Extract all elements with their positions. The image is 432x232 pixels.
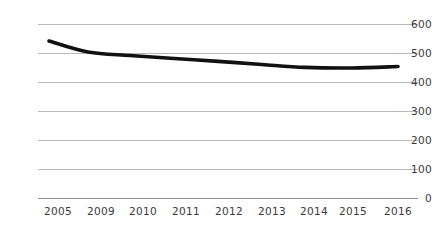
ytick-label-100: 100 bbox=[400, 164, 432, 175]
xtick-label-2009: 2009 bbox=[78, 206, 124, 217]
xtick-label-2010: 2010 bbox=[120, 206, 166, 217]
line-chart: 600 500 400 300 200 100 0 2005 2009 2010… bbox=[0, 0, 432, 232]
xtick-label-2016: 2016 bbox=[375, 206, 421, 217]
xtick-label-2005: 2005 bbox=[35, 206, 81, 217]
ytick-label-300: 300 bbox=[400, 106, 432, 117]
xtick-label-2011: 2011 bbox=[163, 206, 209, 217]
xtick-label-2015: 2015 bbox=[330, 206, 376, 217]
data-series-line bbox=[49, 41, 398, 68]
ytick-label-600: 600 bbox=[400, 19, 432, 30]
ytick-label-0: 0 bbox=[400, 193, 432, 204]
xtick-label-2013: 2013 bbox=[249, 206, 295, 217]
chart-plot-area bbox=[0, 0, 432, 232]
ytick-label-500: 500 bbox=[400, 48, 432, 59]
ytick-label-400: 400 bbox=[400, 77, 432, 88]
gridlines bbox=[38, 25, 418, 199]
ytick-label-200: 200 bbox=[400, 135, 432, 146]
xtick-label-2012: 2012 bbox=[206, 206, 252, 217]
